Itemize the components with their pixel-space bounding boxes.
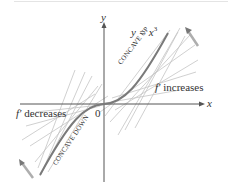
concavity-diagram: [0, 0, 228, 191]
x-axis-label: x: [207, 98, 212, 109]
equation-exponent: 3: [154, 25, 158, 33]
increases-text: increases: [163, 81, 203, 93]
origin-label: 0: [95, 108, 101, 119]
f-prime-increases-label: f′ increases: [155, 82, 204, 93]
f-prime-decreases-label: f′ decreases: [16, 108, 66, 119]
f-prime-symbol: f′: [155, 81, 160, 93]
y-axis-label: y: [101, 12, 106, 23]
x-axis-arrow-icon: [199, 102, 205, 107]
tangent-lines: [22, 28, 198, 176]
f-prime-symbol: f′: [16, 107, 21, 119]
decreases-text: decreases: [24, 107, 66, 119]
